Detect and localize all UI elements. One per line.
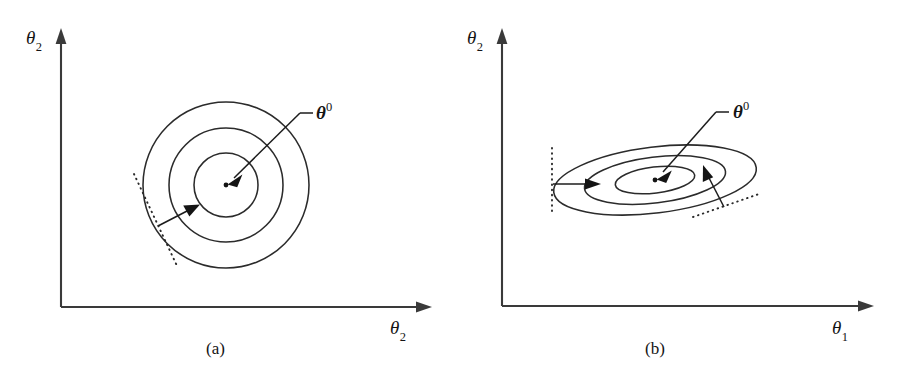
- panel-a-x-axis-label-sub: 2: [400, 330, 406, 344]
- panel-b-right-arrowhead: [703, 165, 713, 182]
- panel-a-optimum-point: [224, 183, 229, 188]
- panel-b-optimum-label: θ0: [733, 101, 749, 121]
- panel-a-y-axis-arrowhead: [56, 28, 67, 44]
- panel-a-y-axis-label: θ2: [26, 28, 42, 51]
- panel-a-graphics: [56, 28, 432, 312]
- figure-container: θ2 θ2 θ0 (a) θ2 θ1 θ0 (b): [0, 0, 898, 377]
- panel-b-optimum-leader-line: [663, 112, 716, 172]
- panel-a-optimum-label: θ0: [316, 102, 332, 122]
- panel-b-right-tangent-dotted-line: [693, 194, 759, 217]
- panel-b-x-axis-label: θ1: [832, 318, 848, 341]
- panel-b-left-arrowhead: [585, 179, 601, 190]
- panel-a-gradient-arrowhead: [183, 205, 200, 217]
- figure-canvas: [0, 0, 898, 377]
- panel-a-x-axis-label-main: θ: [390, 317, 399, 338]
- panel-a-y-axis-label-sub: 2: [36, 40, 42, 54]
- panel-b-optimum-leader-arrowhead: [657, 170, 672, 183]
- panel-b-y-axis-arrowhead: [497, 28, 508, 44]
- panel-b-y-axis-label-sub: 2: [477, 40, 483, 54]
- panel-b-optimum-label-sup: 0: [743, 99, 749, 113]
- panel-a-optimum-leader-line: [234, 113, 300, 178]
- panel-a-x-axis-arrowhead: [416, 302, 432, 313]
- panel-b-x-axis-label-main: θ: [832, 317, 841, 338]
- panel-b-x-axis-label-sub: 1: [842, 330, 848, 344]
- panel-b-optimum-label-main: θ: [733, 101, 743, 122]
- panel-a-tangent-dotted-line: [134, 174, 178, 268]
- panel-a-y-axis-label-main: θ: [26, 27, 35, 48]
- panel-b-caption: (b): [645, 340, 665, 357]
- panel-b-graphics: [497, 28, 874, 311]
- panel-a-optimum-label-main: θ: [316, 102, 326, 123]
- panel-b-y-axis-label-main: θ: [467, 27, 476, 48]
- panel-b-y-axis-label: θ2: [467, 28, 483, 51]
- panel-a-x-axis-label: θ2: [390, 318, 406, 341]
- panel-a-caption: (a): [206, 340, 225, 357]
- panel-a-optimum-label-sup: 0: [326, 100, 332, 114]
- panel-b-x-axis-arrowhead: [858, 301, 874, 312]
- panel-b-optimum-point: [653, 178, 658, 183]
